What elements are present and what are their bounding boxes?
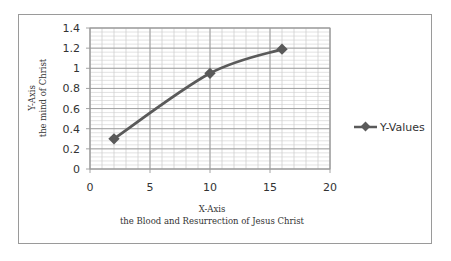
x-axis-ticks: 05101520 [87, 181, 338, 194]
y-tick-label: 0.6 [63, 103, 81, 116]
data-point-diamond-icon [204, 68, 215, 79]
y-axis-title-line2: the mind of Christ [38, 58, 48, 137]
legend-label: Y-Values [379, 121, 425, 134]
line-chart: 00.20.40.60.811.21.4 05101520 Y-Axis the… [0, 0, 451, 261]
x-tick-label: 15 [263, 181, 277, 194]
legend-diamond-icon [361, 122, 371, 132]
x-axis-title-line1: X-Axis [199, 204, 226, 214]
data-point-diamond-icon [276, 43, 287, 54]
x-tick-label: 0 [87, 181, 94, 194]
y-axis-title-line1: Y-Axis [27, 85, 37, 112]
y-axis-ticks: 00.20.40.60.811.21.4 [63, 22, 81, 176]
x-axis-title-line2: the Blood and Resurrection of Jesus Chri… [120, 216, 305, 226]
x-tick-label: 5 [147, 181, 154, 194]
x-tick-label: 20 [323, 181, 337, 194]
y-tick-label: 0.8 [63, 82, 81, 95]
y-tick-label: 0.4 [63, 123, 81, 136]
y-tick-label: 1.2 [63, 42, 81, 55]
x-tick-label: 10 [203, 181, 217, 194]
y-tick-label: 0.2 [63, 143, 81, 156]
y-tick-label: 1 [73, 62, 80, 75]
y-tick-label: 1.4 [63, 22, 81, 35]
y-tick-label: 0 [73, 163, 80, 176]
legend: Y-Values [354, 121, 425, 134]
